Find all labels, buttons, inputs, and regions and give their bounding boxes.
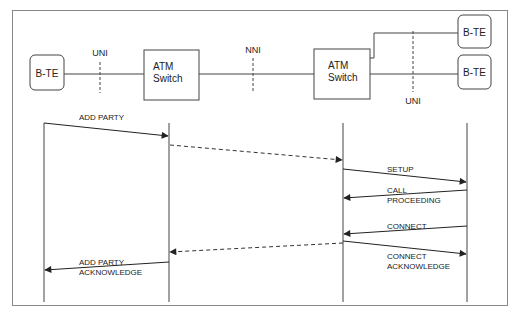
bte-right-top-label: B-TE (463, 27, 486, 38)
nni-label: NNI (245, 45, 261, 55)
uni-left-label: UNI (92, 48, 108, 58)
message-call-proceeding: CALL PROCEEDING (344, 186, 467, 205)
message-connect: CONNECT (344, 222, 467, 234)
message-add-party: ADD PARTY (44, 113, 168, 136)
atm-switch-2-label-line2: Switch (328, 72, 357, 83)
uni-right-interface: UNI (405, 31, 421, 106)
message-forward-dashed (170, 145, 342, 160)
bte-right-bottom-label: B-TE (463, 67, 486, 78)
atm-switch-1-label-line1: ATM (153, 61, 173, 72)
message-setup: SETUP (343, 165, 466, 182)
setup-label: SETUP (387, 165, 414, 174)
connect-ack-label-line2: ACKNOWLEDGE (387, 262, 450, 271)
atm-switch-2-label-line1: ATM (328, 60, 348, 71)
atm-switch-1-label-line2: Switch (153, 73, 182, 84)
call-proceeding-label-line1: CALL (387, 186, 408, 195)
sequence-section: ADD PARTY SETUP CALL PROCEEDING CONNECT (44, 113, 467, 302)
link-switch2-bte-top (370, 33, 458, 58)
message-connect-acknowledge: CONNECT ACKNOWLEDGE (343, 241, 466, 271)
message-add-party-acknowledge: ADD PARTY ACKNOWLEDGE (45, 258, 169, 277)
uni-right-label: UNI (405, 96, 421, 106)
add-party-ack-label-line1: ADD PARTY (79, 258, 125, 267)
bte-right-bottom-node: B-TE (458, 55, 491, 89)
bte-left-label: B-TE (36, 68, 59, 79)
uni-left-interface: UNI (92, 48, 108, 93)
bte-right-top-node: B-TE (458, 15, 491, 48)
atm-switch-1-node: ATM Switch (144, 50, 199, 100)
call-proceeding-label-line2: PROCEEDING (387, 196, 441, 205)
connect-ack-label-line1: CONNECT (387, 252, 427, 261)
atm-switch-2-node: ATM Switch (314, 49, 370, 99)
connect-label: CONNECT (387, 222, 427, 231)
add-party-ack-label-line2: ACKNOWLEDGE (79, 268, 142, 277)
atm-add-party-diagram: B-TE UNI ATM Switch NNI ATM Switch UNI (0, 0, 519, 322)
topology-section: B-TE UNI ATM Switch NNI ATM Switch UNI (30, 15, 491, 106)
message-backward-dashed (170, 243, 343, 252)
nni-interface: NNI (245, 45, 261, 93)
bte-left-node: B-TE (30, 55, 64, 90)
add-party-label: ADD PARTY (79, 113, 125, 122)
